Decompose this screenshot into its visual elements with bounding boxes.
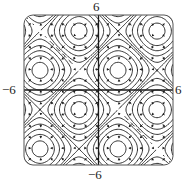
y-min-tick-label: −6 bbox=[88, 168, 102, 181]
y-max-tick-label: 6 bbox=[93, 0, 100, 13]
contour-plot-figure: 6 −6 −6 6 bbox=[0, 0, 186, 183]
contour-plot bbox=[0, 0, 186, 183]
x-min-tick-label: −6 bbox=[2, 83, 16, 96]
x-max-tick-label: 6 bbox=[175, 83, 182, 96]
